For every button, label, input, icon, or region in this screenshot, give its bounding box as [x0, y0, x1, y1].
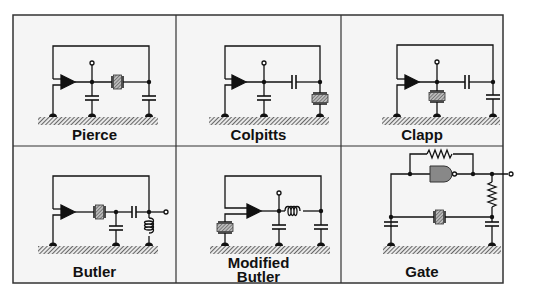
ground-icon: [38, 246, 158, 254]
oscillator-diagram: [0, 0, 548, 297]
output-terminal-icon: [277, 191, 281, 195]
label-clapp: Clapp: [341, 127, 503, 142]
output-terminal-icon: [262, 61, 266, 65]
grid-frame: [13, 15, 503, 283]
label-pierce: Pierce: [13, 127, 176, 142]
output-terminal-icon: [509, 172, 513, 176]
label-colpitts: Colpitts: [176, 127, 341, 142]
crystal-icon: [96, 205, 104, 219]
output-terminal-icon: [435, 60, 439, 64]
label-butler: Butler: [13, 264, 176, 279]
crystal-icon: [312, 95, 328, 103]
crystal-icon: [429, 93, 445, 101]
crystal-icon: [114, 75, 122, 89]
output-terminal-icon: [164, 210, 168, 214]
label-gate: Gate: [341, 264, 503, 279]
label-modified-butler-line2: Butler: [176, 269, 341, 284]
ground-icon: [210, 246, 330, 254]
crystal-icon: [436, 210, 444, 224]
nand-gate-icon: [430, 166, 452, 182]
ground-icon: [38, 117, 158, 125]
ground-icon: [209, 117, 329, 125]
ground-icon: [383, 246, 501, 254]
oscillator-figure: Pierce Colpitts Clapp Butler Modified Bu…: [0, 0, 548, 297]
ground-icon: [382, 117, 500, 125]
crystal-icon: [217, 224, 233, 232]
output-terminal-icon: [90, 61, 94, 65]
